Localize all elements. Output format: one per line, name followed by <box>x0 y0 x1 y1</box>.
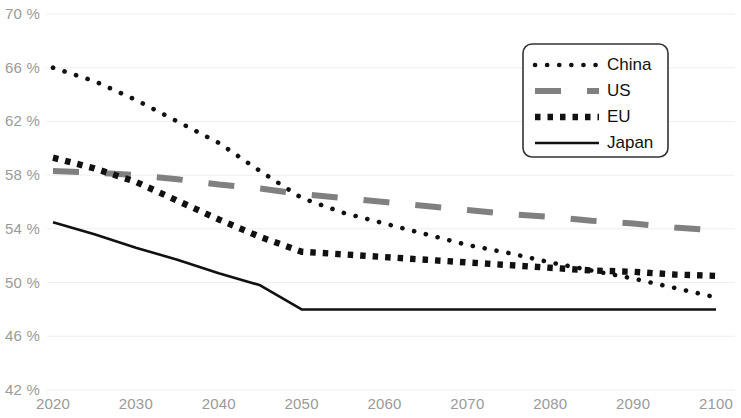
line-chart: 42 %46 %50 %54 %58 %62 %66 %70 % 2020203… <box>0 0 741 418</box>
chart-canvas: 42 %46 %50 %54 %58 %62 %66 %70 % 2020203… <box>0 0 741 418</box>
legend-label-eu: EU <box>607 107 631 126</box>
x-tick-label: 2090 <box>616 395 650 412</box>
y-axis-tick-labels: 42 %46 %50 %54 %58 %62 %66 %70 % <box>5 5 40 398</box>
y-tick-label: 54 % <box>5 220 40 237</box>
y-tick-label: 50 % <box>5 274 40 291</box>
legend-label-us: US <box>607 81 631 100</box>
y-tick-label: 58 % <box>5 166 40 183</box>
x-tick-label: 2100 <box>699 395 733 412</box>
x-tick-label: 2070 <box>450 395 484 412</box>
legend-label-china: China <box>607 55 652 74</box>
x-axis-tick-labels: 202020302040205020602070208020902100 <box>36 395 733 412</box>
y-tick-label: 66 % <box>5 59 40 76</box>
legend-label-japan: Japan <box>607 133 653 152</box>
series-line-japan <box>53 222 716 309</box>
x-tick-label: 2030 <box>119 395 153 412</box>
x-tick-label: 2050 <box>285 395 319 412</box>
series-line-us <box>53 171 716 230</box>
y-tick-label: 42 % <box>5 381 40 398</box>
x-tick-label: 2060 <box>367 395 401 412</box>
y-tick-label: 62 % <box>5 112 40 129</box>
chart-legend: ChinaUSEUJapan <box>523 44 668 157</box>
x-tick-label: 2020 <box>36 395 70 412</box>
x-tick-label: 2040 <box>202 395 236 412</box>
y-tick-label: 70 % <box>5 5 40 22</box>
x-tick-label: 2080 <box>533 395 567 412</box>
y-tick-label: 46 % <box>5 327 40 344</box>
